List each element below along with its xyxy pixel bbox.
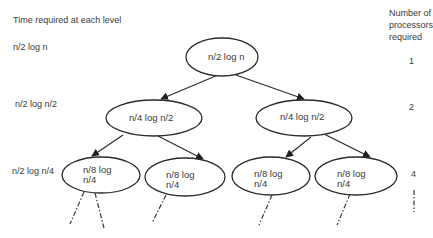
edge-left-to-l3-1	[92, 135, 123, 156]
node-level3-2: n/8 log n/4	[145, 158, 225, 196]
edge-root-to-left	[161, 75, 218, 99]
time-column-header: Time required at each level	[13, 15, 121, 25]
node-level3-2-label-line2: n/4	[166, 179, 179, 190]
continuation-line-2	[95, 193, 104, 228]
processors-header-line-1: Number of	[389, 8, 432, 18]
recursion-tree-diagram: Time required at each level n/2 log n n/…	[0, 0, 433, 238]
node-level2-left: n/4 log n/2	[106, 100, 202, 136]
continuation-line-4	[259, 195, 272, 225]
node-level3-3: n/8 log n/4	[232, 157, 310, 195]
level-1-processors: 1	[409, 56, 414, 66]
node-root-label: n/2 log n	[208, 51, 244, 62]
level-1-time: n/2 log n	[13, 42, 48, 52]
edge-left-to-l3-2	[158, 136, 203, 159]
level-3-time: n/2 log n/4	[12, 166, 54, 176]
level-3-processors: 4	[411, 169, 416, 179]
node-level2-left-label: n/4 log n/2	[129, 112, 173, 123]
edge-root-to-right	[236, 75, 304, 99]
node-level3-1-ellipse	[62, 157, 140, 193]
continuation-line-1	[70, 192, 84, 224]
continuation-line-3	[152, 195, 166, 223]
processors-column-header: Number of processors required	[389, 8, 433, 42]
node-level2-right-label: n/4 log n/2	[280, 111, 324, 122]
level-2-processors: 2	[409, 102, 414, 112]
node-level3-3-label-line2: n/4	[254, 178, 267, 189]
processors-header-line-2: processors	[389, 20, 433, 30]
node-level3-1-label-line2: n/4	[83, 174, 96, 185]
continuation-line-5	[337, 194, 350, 225]
edge-right-to-l3-3	[286, 137, 311, 157]
level-2-time: n/2 log n/2	[15, 99, 57, 109]
edge-right-to-l3-4	[324, 134, 370, 157]
node-level2-right: n/4 log n/2	[256, 100, 352, 136]
node-root: n/2 log n	[186, 38, 258, 76]
processors-header-line-3: required	[389, 32, 422, 42]
node-level3-4-label-line2: n/4	[337, 178, 350, 189]
node-level3-4: n/8 log n/4	[315, 157, 397, 195]
node-level3-1: n/8 log n/4	[62, 157, 140, 193]
